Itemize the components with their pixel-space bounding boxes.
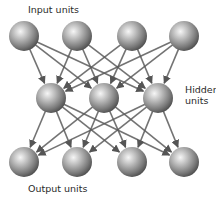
network-graphic bbox=[0, 0, 216, 199]
output-unit-sphere-o4 bbox=[169, 147, 199, 177]
hidden-unit-sphere-h1 bbox=[36, 83, 66, 113]
input-units-label: Input units bbox=[28, 4, 79, 15]
connection-arrow-i3-h2 bbox=[111, 47, 127, 83]
hidden-label-line1: Hidden bbox=[185, 84, 216, 95]
output-units-label: Output units bbox=[28, 183, 87, 194]
input-unit-sphere-i3 bbox=[117, 21, 147, 51]
output-unit-sphere-o2 bbox=[62, 147, 92, 177]
output-unit-sphere-o1 bbox=[9, 147, 39, 177]
input-unit-sphere-i1 bbox=[9, 21, 39, 51]
neural-network-diagram: Input units Hidden units Output units bbox=[0, 0, 216, 199]
connection-arrow-h3-o4 bbox=[163, 109, 178, 147]
input-unit-sphere-i2 bbox=[62, 21, 92, 51]
unit-spheres bbox=[9, 21, 199, 177]
connection-arrow-i1-h1 bbox=[29, 47, 45, 83]
input-unit-sphere-i4 bbox=[169, 21, 199, 51]
hidden-unit-sphere-h2 bbox=[89, 83, 119, 113]
connection-arrow-h1-o1 bbox=[30, 109, 46, 147]
hidden-unit-sphere-h3 bbox=[143, 83, 173, 113]
hidden-label-line2: units bbox=[185, 95, 216, 106]
hidden-units-label: Hidden units bbox=[185, 84, 216, 106]
output-unit-sphere-o3 bbox=[117, 147, 147, 177]
connection-arrow-h3-o3 bbox=[138, 109, 153, 147]
connection-arrow-i4-h3 bbox=[164, 47, 179, 83]
connection-arrow-h2-o4 bbox=[113, 105, 171, 152]
